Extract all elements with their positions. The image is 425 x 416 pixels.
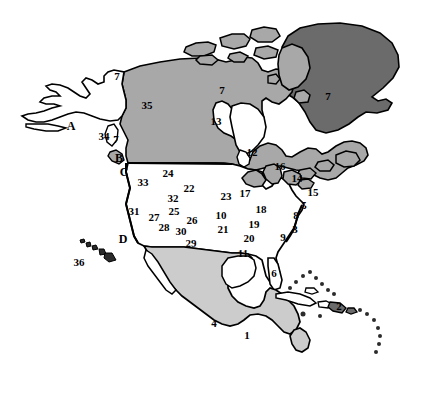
map-label-british-columbia-coast: 7 [113,134,119,145]
map-label-deep-south: 20 [244,233,255,244]
map-label-puget-sound: B [115,152,123,164]
map-label-ohio-valley: 18 [256,204,267,215]
map-label-southern-rockies: 30 [176,226,187,237]
map-label-central-rockies: 26 [187,215,198,226]
map-label-northern-plains: 24 [163,168,174,179]
map-label-southwest: 28 [159,222,170,233]
map-graphic [0,0,425,416]
map-label-hispaniola: 2 [336,301,342,312]
map-label-northern-california: 31 [129,206,140,217]
map-label-eastern-canada: 12 [247,147,258,158]
map-label-southern-plains: 29 [186,238,197,249]
map-label-gulf-coast: 11 [238,248,248,259]
map-label-great-basin-south: 25 [169,206,180,217]
map-label-great-basin-north: 32 [168,193,179,204]
map-label-southern-california-coast: D [119,233,128,245]
map-label-baffin-greenland: 7 [325,91,331,102]
hawaii-islands [80,239,116,262]
map-label-central-canada: 13 [211,116,222,127]
map-label-southeast: 9 [280,232,286,243]
map-label-new-england: 15 [308,187,319,198]
map-label-vancouver-island: 34 [99,131,110,142]
map-label-upper-midwest: 23 [221,191,232,202]
map-label-oregon-coast: C [120,166,129,178]
map-label-northern-canada: 7 [219,85,225,96]
map-label-lake-huron: 16 [275,161,286,172]
map-label-western-canada: 35 [142,100,153,111]
map-label-midwest: 10 [216,210,227,221]
map-label-central-plains: 22 [184,183,195,194]
map-label-alaska-yukon-border: 7 [114,71,120,82]
map-label-northwest-interior: 33 [138,177,149,188]
map-label-hawaii: 36 [74,257,85,268]
map-label-central-america: 1 [244,330,250,341]
map-label-lake-ontario: 14 [292,173,303,184]
map-label-great-lakes-west: 17 [240,188,251,199]
map-label-mid-atlantic-north: 5 [301,200,307,211]
map-label-southeast-coast: 3 [292,224,298,235]
map-label-southern-alaska: A [67,120,76,132]
north-america-map-figure: 7A35713712347BC3324223225312726283029D36… [0,0,425,416]
map-label-mid-atlantic: 8 [293,210,299,221]
map-label-lower-midwest: 21 [218,224,229,235]
map-label-florida: 6 [271,268,277,279]
map-label-mid-south: 19 [249,219,260,230]
map-label-mexico: 4 [211,318,217,329]
